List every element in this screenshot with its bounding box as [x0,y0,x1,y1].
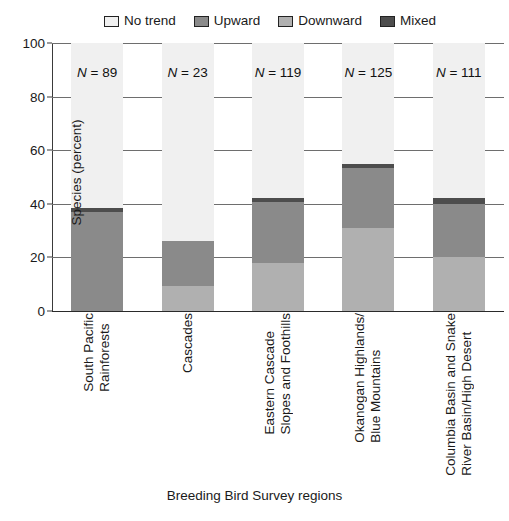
chart-figure: No trend Upward Downward Mixed 020406080… [0,0,509,521]
x-tick-label-line: Rainforests [97,313,113,392]
y-axis-title: Species (percent) [69,93,84,253]
x-tick-label-lines: Cascades [180,313,196,373]
x-tick-label-line: South Pacific [81,313,97,392]
bar-n-label: N = 23 [162,65,214,80]
x-tick-label-line: Slopes and Foothills [278,313,294,435]
bar-segment-upward[interactable] [433,204,485,258]
bar-segment-downward[interactable] [162,286,214,311]
legend-swatch-downward [278,16,293,27]
legend-swatch-no-trend [104,16,119,27]
legend-swatch-mixed [380,16,395,27]
bar-n-label: N = 119 [252,65,304,80]
x-tick-label-line: Eastern Cascade [262,313,278,435]
bar-stack [433,43,485,311]
legend-label-mixed: Mixed [400,14,436,28]
bar-group[interactable]: N = 125 [342,43,394,311]
legend-item-mixed[interactable]: Mixed [380,14,436,28]
bar-n-label: N = 89 [71,65,123,80]
x-tick-label-lines: Columbia Basin and SnakeRiver Basin/High… [443,313,475,476]
legend-item-downward[interactable]: Downward [278,14,362,28]
legend-item-upward[interactable]: Upward [194,14,261,28]
chart-legend: No trend Upward Downward Mixed [55,10,485,32]
bar-segment-upward[interactable] [162,241,214,285]
x-tick-label-line: Cascades [180,313,196,373]
x-axis-title: Breeding Bird Survey regions [0,488,509,503]
legend-label-upward: Upward [214,14,261,28]
x-tick-label-line: Blue Mountains [368,313,384,443]
bar-stack [162,43,214,311]
bar-group[interactable]: N = 23 [162,43,214,311]
bar-n-label: N = 111 [433,65,485,80]
bars-container: N = 89N = 23N = 119N = 125N = 111 [52,43,504,311]
x-tick-label-line: Okanogan Highlands/ [352,313,368,443]
bar-segment-downward[interactable] [252,263,304,311]
x-axis-tick-labels: South PacificRainforestsCascadesEastern … [52,313,504,481]
bar-segment-upward[interactable] [342,168,394,228]
bar-group[interactable]: N = 119 [252,43,304,311]
legend-item-no-trend[interactable]: No trend [104,14,176,28]
bar-group[interactable]: N = 111 [433,43,485,311]
legend-swatch-upward [194,16,209,27]
x-tick-label-lines: Okanogan Highlands/Blue Mountains [352,313,384,443]
legend-label-downward: Downward [298,14,362,28]
bar-stack [252,43,304,311]
bar-segment-no-trend[interactable] [342,43,394,164]
x-tick-label-line: River Basin/High Desert [459,313,475,476]
bar-segment-downward[interactable] [342,228,394,311]
bar-segment-upward[interactable] [252,202,304,262]
plot-area: 020406080100 N = 89N = 23N = 119N = 125N… [52,43,504,311]
x-tick-label-lines: Eastern CascadeSlopes and Foothills [262,313,294,435]
bar-segment-mixed[interactable] [252,198,304,202]
bar-segment-mixed[interactable] [342,164,394,168]
bar-stack [342,43,394,311]
bar-segment-downward[interactable] [433,257,485,311]
bar-n-label: N = 125 [342,65,394,80]
bar-segment-mixed[interactable] [433,198,485,203]
legend-label-no-trend: No trend [124,14,176,28]
x-tick-label-lines: South PacificRainforests [81,313,113,392]
x-tick-label-line: Columbia Basin and Snake [443,313,459,476]
